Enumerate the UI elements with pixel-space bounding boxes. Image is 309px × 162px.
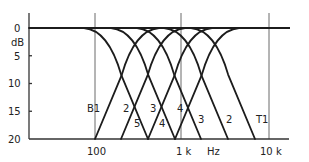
curve-label-2: 3 — [150, 103, 156, 114]
x-unit-label: Hz — [207, 146, 220, 157]
y-unit-label: dB — [11, 37, 24, 48]
x-tick-10k: 10 k — [260, 146, 282, 157]
curve-label-5: 4 — [159, 118, 165, 129]
curve-label-6: 3 — [198, 114, 204, 125]
y-tick-0: 0 — [14, 23, 20, 34]
curve-label-7: 2 — [226, 114, 232, 125]
curve-label-3: 4 — [177, 103, 183, 114]
y-tick-20: 20 — [8, 134, 21, 145]
curve-label-1: 2 — [123, 103, 129, 114]
x-tick-1k: 1 k — [176, 146, 192, 157]
lowpass-curve-3 — [97, 28, 201, 139]
x-tick-100: 100 — [87, 146, 106, 157]
curve-label-0: B1 — [87, 103, 100, 114]
y-tick-15: 15 — [8, 106, 21, 117]
curve-label-8: T1 — [255, 114, 268, 125]
curve-label-4: 5 — [134, 118, 140, 129]
y-tick-10: 10 — [8, 78, 21, 89]
lowpass-curve-1 — [29, 28, 148, 139]
filter-response-chart: 0 dB 5 10 15 20 100 1 k Hz 10 k B1234543… — [0, 0, 309, 162]
y-tick-5: 5 — [14, 51, 20, 62]
